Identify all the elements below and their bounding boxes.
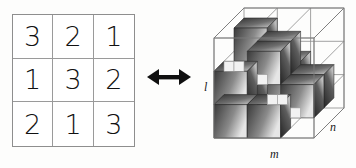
latin-square-cell: 2 [94, 59, 134, 103]
latin-square-cell: 3 [53, 59, 93, 103]
latin-square-cell: 2 [53, 15, 93, 59]
cube-diagram: l m n [196, 0, 356, 168]
cube-svg [196, 0, 356, 168]
latin-square-cell: 3 [13, 15, 53, 59]
latin-square-cell: 1 [13, 59, 53, 103]
latin-square-cell: 1 [94, 15, 134, 59]
latin-square-cell: 2 [13, 102, 53, 146]
latin-square-cell: 3 [94, 102, 134, 146]
latin-square-cell: 1 [53, 102, 93, 146]
axis-label-m: m [270, 147, 279, 162]
double-arrow-icon [146, 63, 192, 91]
latin-square-cube-figure: 3 2 1 1 3 2 2 1 3 [0, 0, 356, 168]
axis-label-l: l [204, 80, 207, 95]
axis-label-n: n [330, 120, 336, 135]
latin-square-grid: 3 2 1 1 3 2 2 1 3 [12, 14, 135, 147]
